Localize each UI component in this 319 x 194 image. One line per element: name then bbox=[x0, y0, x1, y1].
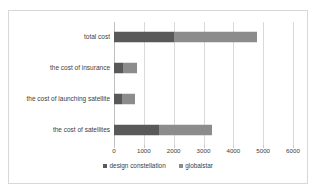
bar-row: the cost of launching satellite bbox=[114, 84, 293, 115]
x-tick-mark bbox=[144, 145, 145, 148]
x-tick-mark bbox=[204, 145, 205, 148]
bar-segment[interactable] bbox=[159, 124, 213, 135]
chart-frame: total costthe cost of insurancethe cost … bbox=[8, 10, 308, 184]
stacked-bar[interactable] bbox=[114, 63, 137, 74]
bar-segment[interactable] bbox=[122, 93, 135, 104]
x-tick-label: 6000 bbox=[286, 148, 300, 154]
stacked-bar[interactable] bbox=[114, 93, 135, 104]
square-marker-icon bbox=[179, 164, 183, 168]
x-tick-label: 1000 bbox=[137, 148, 151, 154]
square-marker-icon bbox=[103, 164, 107, 168]
stacked-bar[interactable] bbox=[114, 124, 212, 135]
x-tick-label: 4000 bbox=[226, 148, 240, 154]
x-tick-label: 3000 bbox=[197, 148, 211, 154]
x-tick-mark bbox=[174, 145, 175, 148]
bar-segment[interactable] bbox=[114, 63, 123, 74]
bar-row: total cost bbox=[114, 22, 293, 53]
category-label: the cost of satellites bbox=[53, 126, 110, 133]
bar-segment[interactable] bbox=[114, 32, 174, 43]
legend-item[interactable]: design constellation bbox=[103, 163, 166, 169]
x-tick-label: 2000 bbox=[167, 148, 181, 154]
bar-row: the cost of satellites bbox=[114, 114, 293, 145]
x-axis-tick-labels: 0100020003000400050006000 bbox=[114, 148, 293, 158]
bar-rows: total costthe cost of insurancethe cost … bbox=[114, 22, 293, 145]
stacked-bar[interactable] bbox=[114, 32, 257, 43]
category-label: the cost of launching satellite bbox=[27, 96, 110, 103]
bar-row: the cost of insurance bbox=[114, 53, 293, 84]
category-label: the cost of insurance bbox=[50, 65, 110, 72]
x-tick-mark bbox=[233, 145, 234, 148]
x-tick-mark bbox=[263, 145, 264, 148]
x-tick-mark bbox=[293, 145, 294, 148]
plot-area: total costthe cost of insurancethe cost … bbox=[114, 22, 293, 145]
gridline bbox=[293, 22, 294, 145]
x-tick-mark bbox=[114, 145, 115, 148]
legend-label: globalstar bbox=[185, 163, 213, 169]
chart-legend: design constellation globalstar bbox=[9, 163, 307, 169]
legend-label: design constellation bbox=[110, 163, 166, 169]
bar-segment[interactable] bbox=[114, 93, 122, 104]
bar-segment[interactable] bbox=[114, 124, 159, 135]
x-tick-label: 5000 bbox=[256, 148, 270, 154]
category-label: total cost bbox=[84, 34, 110, 41]
bar-segment[interactable] bbox=[123, 63, 137, 74]
legend-item[interactable]: globalstar bbox=[179, 163, 213, 169]
x-tick-label: 0 bbox=[112, 148, 115, 154]
bar-segment[interactable] bbox=[174, 32, 258, 43]
